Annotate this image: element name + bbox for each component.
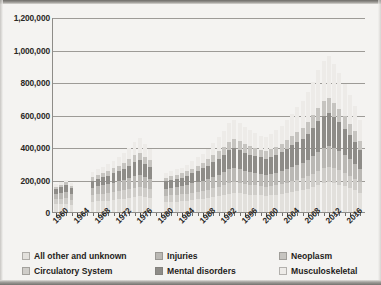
bar-segment <box>238 150 242 169</box>
bar-segment <box>311 115 315 128</box>
bar-segment <box>248 155 252 173</box>
bar-segment <box>122 190 126 198</box>
bar-segment <box>201 168 205 180</box>
bar-segment <box>337 151 341 170</box>
bar-1960 <box>54 184 58 212</box>
legend-item-circulatory-system[interactable]: Circulatory System <box>22 264 155 277</box>
bar-segment <box>175 195 179 202</box>
bar-segment <box>54 204 58 212</box>
legend-row-1: All other and unknown Injuries Neoplasm <box>22 249 367 262</box>
bar-segment <box>253 148 257 156</box>
bar-segment <box>206 179 210 190</box>
bar-segment <box>259 157 263 174</box>
bar-segment <box>285 183 289 193</box>
bar-segment <box>143 177 147 188</box>
bar-2005 <box>290 114 294 212</box>
bar-segment <box>227 142 231 151</box>
y-tick-label: 200,000 <box>2 176 50 186</box>
bar-segment <box>227 183 231 194</box>
x-tick <box>261 213 262 216</box>
bar-segment <box>117 157 121 166</box>
bar-segment <box>280 144 284 152</box>
bar-1987 <box>196 157 200 212</box>
bar-segment <box>343 116 347 128</box>
bar-segment <box>169 180 173 188</box>
bar-segment <box>185 194 189 201</box>
bar-segment <box>306 92 310 122</box>
bar-segment <box>295 165 299 180</box>
bar-segment <box>290 167 294 181</box>
y-tick-label: 1,000,000 <box>2 46 50 56</box>
bar-segment <box>248 172 252 185</box>
bar-segment <box>127 178 131 189</box>
bar-1976 <box>138 138 142 212</box>
bar-1993 <box>227 123 231 212</box>
bar-segment <box>259 186 263 195</box>
bar-segment <box>232 168 236 182</box>
bar-segment <box>322 101 326 116</box>
legend-item-musculoskeletal[interactable]: Musculoskeletal <box>279 264 357 277</box>
bar-segment <box>232 120 236 139</box>
legend-label: Neoplasm <box>291 251 332 261</box>
bar-segment <box>196 182 200 191</box>
bar-segment <box>106 176 110 185</box>
bar-segment <box>122 180 126 190</box>
bar-segment <box>201 154 205 163</box>
bar-1990 <box>211 143 215 212</box>
legend-row-2: Circulatory System Mental disorders Musc… <box>22 264 367 277</box>
bar-segment <box>211 155 215 162</box>
bar-segment <box>311 128 315 156</box>
bar-segment <box>253 133 257 148</box>
bar-segment <box>91 181 95 188</box>
bar-segment <box>227 123 231 141</box>
bar-1985 <box>185 165 189 212</box>
bar-segment <box>117 171 121 181</box>
bar-segment <box>290 145 294 166</box>
legend-item-injuries[interactable]: Injuries <box>155 249 279 262</box>
x-tick <box>219 213 220 216</box>
bar-2004 <box>285 120 289 212</box>
bar-2013 <box>332 64 336 212</box>
bar-segment <box>222 185 226 195</box>
bar-segment <box>253 185 257 195</box>
bar-segment <box>322 116 326 148</box>
bar-2014 <box>337 73 341 212</box>
bar-1992 <box>222 131 226 212</box>
legend-label: Circulatory System <box>34 266 112 276</box>
y-tick-label: 600,000 <box>2 111 50 121</box>
legend-label: Injuries <box>167 251 198 261</box>
legend-item-neoplasm[interactable]: Neoplasm <box>279 249 332 262</box>
bar-segment <box>133 197 137 212</box>
bar-segment <box>112 183 116 192</box>
x-tick <box>156 213 157 216</box>
bar-1995 <box>238 123 242 212</box>
bar-segment <box>96 179 100 187</box>
bar-segment <box>358 169 362 183</box>
bar-2015 <box>343 84 347 212</box>
bar-segment <box>348 176 352 188</box>
bar-segment <box>316 171 320 186</box>
bar-segment <box>316 121 320 151</box>
bar-segment <box>353 131 357 141</box>
y-tick-label: 1,200,000 <box>2 13 50 23</box>
bar-segment <box>133 142 137 155</box>
bar-segment <box>217 159 221 175</box>
bar-segment <box>327 182 331 212</box>
bar-segment <box>337 109 341 122</box>
bar-segment <box>211 188 215 197</box>
legend-item-mental-disorders[interactable]: Mental disorders <box>155 264 279 277</box>
bar-segment <box>222 195 226 212</box>
bar-segment <box>311 82 315 115</box>
bar-segment <box>353 164 357 179</box>
bar-segment <box>295 107 299 131</box>
bar-segment <box>306 176 310 189</box>
bar-segment <box>211 177 215 188</box>
bar-segment <box>180 178 184 187</box>
legend-swatch-icon <box>155 267 163 275</box>
bar-segment <box>112 161 116 169</box>
bar-segment <box>322 183 326 212</box>
legend-item-all-other-and-unknown[interactable]: All other and unknown <box>22 249 155 262</box>
bar-segment <box>327 146 331 167</box>
bar-segment <box>259 195 263 212</box>
bar-segment <box>238 193 242 212</box>
